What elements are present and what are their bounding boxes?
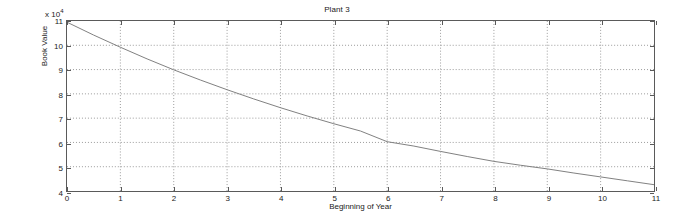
x-tick-mark — [174, 187, 175, 191]
y-tick-mark — [650, 144, 654, 145]
x-tick-mark — [495, 21, 496, 25]
book-value-curve — [67, 22, 654, 184]
x-tick-mark — [442, 21, 443, 25]
x-tick-mark — [549, 187, 550, 191]
y-axis-label-wrapper: Book Value — [4, 40, 16, 170]
x-tick-mark — [121, 21, 122, 25]
y-tick-mark — [67, 95, 71, 96]
y-tick-mark — [650, 21, 654, 22]
y-tick-mark — [650, 70, 654, 71]
chart-title: Plant 3 — [0, 5, 674, 14]
x-tick-mark — [228, 21, 229, 25]
y-tick-label: 11 — [55, 17, 63, 26]
x-tick-mark — [495, 187, 496, 191]
y-tick-mark — [650, 168, 654, 169]
y-tick-label: 8 — [59, 90, 63, 99]
x-tick-mark — [442, 187, 443, 191]
chart-figure: Plant 3 x 104 Book Value 4567891011 0123… — [0, 0, 674, 220]
y-tick-label: 10 — [54, 41, 63, 50]
x-tick-mark — [228, 187, 229, 191]
y-axis-exponent-power: 4 — [60, 8, 63, 14]
x-tick-mark — [174, 21, 175, 25]
x-tick-mark — [602, 187, 603, 191]
y-tick-label: 7 — [59, 115, 63, 124]
vertical-gridlines — [120, 21, 600, 191]
y-tick-label: 5 — [59, 164, 63, 173]
x-tick-mark — [67, 187, 68, 191]
x-tick-mark — [602, 21, 603, 25]
x-tick-mark — [121, 187, 122, 191]
y-tick-mark — [67, 144, 71, 145]
x-tick-mark — [388, 21, 389, 25]
x-tick-mark — [281, 21, 282, 25]
curve-svg — [67, 21, 654, 191]
plot-area: 4567891011 01234567891011 — [66, 20, 655, 192]
y-tick-mark — [650, 119, 654, 120]
y-tick-mark — [650, 46, 654, 47]
y-tick-label: 9 — [59, 66, 63, 75]
y-tick-mark — [67, 119, 71, 120]
x-tick-mark — [656, 187, 657, 191]
y-axis-label: Book Value — [40, 0, 52, 111]
x-tick-mark — [67, 21, 68, 25]
x-tick-mark — [656, 21, 657, 25]
y-tick-mark — [67, 168, 71, 169]
x-tick-mark — [335, 187, 336, 191]
x-tick-mark — [281, 187, 282, 191]
x-tick-mark — [549, 21, 550, 25]
y-tick-mark — [650, 193, 654, 194]
y-tick-mark — [650, 95, 654, 96]
x-tick-mark — [335, 21, 336, 25]
y-tick-label: 6 — [59, 139, 63, 148]
x-axis-label: Beginning of Year — [66, 202, 655, 211]
y-tick-mark — [67, 70, 71, 71]
y-tick-label: 4 — [59, 189, 63, 198]
y-tick-mark — [67, 193, 71, 194]
x-tick-mark — [388, 187, 389, 191]
y-tick-mark — [67, 46, 71, 47]
horizontal-gridlines — [67, 45, 654, 166]
